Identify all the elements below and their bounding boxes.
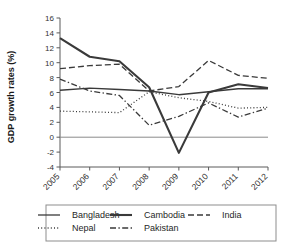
y-axis-label: GDP growth rates (%) <box>6 51 16 143</box>
y-tick-label: 10 <box>45 59 54 68</box>
x-tick-label: 2007 <box>100 171 121 192</box>
gdp-growth-line-chart: GDP growth rates (%) -4-2024681012141620… <box>0 0 288 248</box>
x-tick-label: 2011 <box>220 171 240 191</box>
plot-area: -4-2024681012141620052006200720082009201… <box>41 14 270 192</box>
y-tick-label: 8 <box>50 74 55 83</box>
y-tick-label: 0 <box>50 133 55 142</box>
series-line-india <box>60 60 268 91</box>
x-tick-label: 2009 <box>160 171 181 192</box>
x-tick-label: 2006 <box>71 171 92 192</box>
y-tick-label: -4 <box>47 163 55 172</box>
y-tick-label: 2 <box>50 118 55 127</box>
legend-label-pakistan: Pakistan <box>144 223 179 233</box>
x-tick-label: 2012 <box>249 171 270 192</box>
chart-legend: BangladeshCambodiaIndiaNepalPakistan <box>38 205 276 241</box>
legend-label-india: India <box>222 210 242 220</box>
legend-label-nepal: Nepal <box>72 223 96 233</box>
series-line-nepal <box>60 92 268 113</box>
x-tick-label: 2008 <box>130 171 151 192</box>
x-tick-label: 2005 <box>41 171 62 192</box>
y-tick-label: 4 <box>50 103 55 112</box>
y-tick-label: 16 <box>45 14 54 23</box>
legend-label-cambodia: Cambodia <box>144 210 185 220</box>
x-tick-label: 2010 <box>190 171 211 192</box>
y-tick-label: 14 <box>45 29 54 38</box>
chart-svg: GDP growth rates (%) -4-2024681012141620… <box>0 0 288 248</box>
y-tick-label: 12 <box>45 44 54 53</box>
series-line-cambodia <box>60 38 268 153</box>
y-tick-label: -2 <box>47 148 55 157</box>
y-tick-label: 6 <box>50 89 55 98</box>
